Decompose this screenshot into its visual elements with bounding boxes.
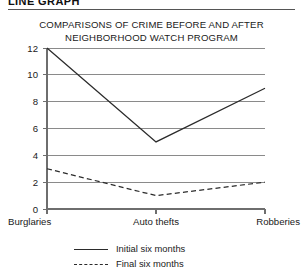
y-axis-tick-label: 4: [33, 150, 39, 161]
legend-item: Initial six months: [74, 241, 274, 256]
x-axis-category-label: Auto thefts: [133, 216, 179, 227]
line-chart-svg: 024681012 BurglariesAuto theftsRobberies: [0, 0, 303, 276]
legend-swatch-bar: [74, 264, 108, 265]
chart-legend: Initial six monthsFinal six months: [74, 241, 274, 271]
x-axis-labels-group: BurglariesAuto theftsRobberies: [8, 216, 300, 227]
gridlines-group: [47, 48, 265, 209]
legend-item: Final six months: [74, 256, 274, 271]
x-axis-ticks-group: [47, 209, 265, 214]
legend-line-swatch-icon: [74, 244, 108, 254]
y-axis-tick-label: 10: [27, 69, 38, 80]
data-series-line: [47, 48, 265, 142]
data-series-group: [47, 48, 265, 196]
chart-plot-area: 024681012 BurglariesAuto theftsRobberies: [0, 0, 303, 276]
legend-item-label: Initial six months: [116, 243, 185, 254]
y-axis-ticks-group: 024681012: [27, 43, 47, 215]
y-axis-tick-label: 6: [33, 123, 38, 134]
y-axis-tick-label: 0: [33, 204, 38, 215]
y-axis-tick-label: 8: [33, 96, 38, 107]
legend-item-label: Final six months: [116, 258, 184, 269]
x-axis-category-label: Robberies: [256, 216, 300, 227]
legend-line-swatch-icon: [74, 259, 108, 269]
y-axis-tick-label: 12: [27, 43, 38, 54]
y-axis-tick-label: 2: [33, 177, 38, 188]
legend-swatch-bar: [74, 249, 108, 250]
x-axis-category-label: Burglaries: [8, 216, 51, 227]
